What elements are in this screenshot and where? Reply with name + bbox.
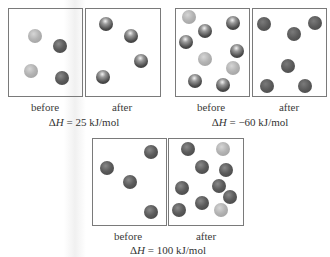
molecule-sphere-icon bbox=[134, 54, 148, 68]
molecule-sphere-icon bbox=[198, 52, 212, 66]
molecule-sphere-icon bbox=[287, 27, 301, 41]
molecule-sphere-icon bbox=[281, 59, 295, 73]
molecule-sphere-icon bbox=[260, 79, 274, 93]
molecule-sphere-icon bbox=[144, 145, 158, 159]
molecule-sphere-icon bbox=[219, 163, 233, 177]
molecule-sphere-icon bbox=[179, 35, 193, 49]
molecule-sphere-icon bbox=[214, 203, 228, 217]
molecule-sphere-icon bbox=[181, 142, 195, 156]
molecule-sphere-icon bbox=[96, 70, 110, 84]
molecule-sphere-icon bbox=[223, 190, 237, 204]
enthalpy-change-label: ΔH = 25 kJ/mol bbox=[49, 116, 119, 128]
molecule-sphere-icon bbox=[195, 196, 209, 210]
molecule-sphere-icon bbox=[24, 64, 38, 78]
molecule-sphere-icon bbox=[230, 44, 244, 58]
after-container-box bbox=[85, 8, 161, 97]
after-label: after bbox=[279, 101, 299, 113]
enthalpy-variable: H bbox=[56, 116, 64, 128]
enthalpy-value: = 100 kJ/mol bbox=[145, 244, 206, 256]
molecule-sphere-icon bbox=[28, 29, 42, 43]
enthalpy-change-label: ΔH = −60 kJ/mol bbox=[212, 116, 289, 128]
molecule-sphere-icon bbox=[172, 203, 186, 217]
molecule-sphere-icon bbox=[99, 17, 113, 31]
molecule-sphere-icon bbox=[124, 29, 138, 43]
molecule-sphere-icon bbox=[195, 160, 209, 174]
molecule-sphere-icon bbox=[226, 61, 240, 75]
molecule-sphere-icon bbox=[188, 74, 202, 88]
enthalpy-value: = 25 kJ/mol bbox=[64, 116, 119, 128]
molecule-sphere-icon bbox=[212, 179, 226, 193]
molecule-sphere-icon bbox=[257, 17, 271, 31]
molecule-sphere-icon bbox=[298, 79, 312, 93]
before-label: before bbox=[197, 101, 225, 113]
after-label: after bbox=[196, 230, 216, 242]
molecule-sphere-icon bbox=[216, 78, 230, 92]
enthalpy-variable: H bbox=[219, 116, 227, 128]
molecule-sphere-icon bbox=[55, 71, 69, 85]
molecule-sphere-icon bbox=[144, 205, 158, 219]
before-label: before bbox=[31, 101, 59, 113]
enthalpy-change-label: ΔH = 100 kJ/mol bbox=[130, 244, 206, 256]
molecule-sphere-icon bbox=[216, 142, 230, 156]
molecule-sphere-icon bbox=[198, 24, 212, 38]
molecule-sphere-icon bbox=[53, 39, 67, 53]
molecule-sphere-icon bbox=[175, 181, 189, 195]
before-container-box bbox=[8, 8, 83, 97]
molecule-sphere-icon bbox=[226, 16, 240, 30]
before-label: before bbox=[114, 230, 142, 242]
after-label: after bbox=[112, 101, 132, 113]
molecule-sphere-icon bbox=[100, 161, 114, 175]
enthalpy-value: = −60 kJ/mol bbox=[227, 116, 289, 128]
enthalpy-variable: H bbox=[137, 244, 145, 256]
molecule-sphere-icon bbox=[182, 10, 196, 24]
molecule-sphere-icon bbox=[308, 16, 322, 30]
molecule-sphere-icon bbox=[123, 175, 137, 189]
